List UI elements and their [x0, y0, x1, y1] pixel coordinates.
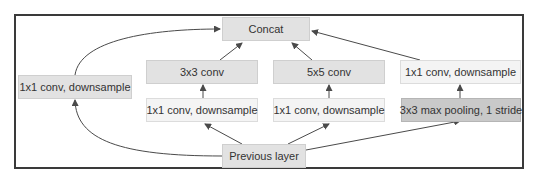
conv5x5-label: 5x5 conv: [307, 66, 351, 78]
edge-conv5x5-to-concat: [292, 43, 312, 60]
left-downsample-label: 1x1 conv, downsample: [19, 81, 130, 93]
concat-node: Concat: [222, 17, 310, 41]
conv5x5-node: 5x5 conv: [273, 60, 385, 84]
downsample-b-node: 1x1 conv, downsample: [273, 98, 385, 122]
edge-previous-to-downsample-a: [205, 124, 242, 144]
downsample-b-label: 1x1 conv, downsample: [273, 104, 384, 116]
maxpool-label: 3x3 max pooling, 1 stride: [400, 104, 522, 116]
left-downsample-node: 1x1 conv, downsample: [18, 75, 132, 99]
maxpool-node: 3x3 max pooling, 1 stride: [401, 98, 521, 122]
right-downsample-label: 1x1 conv, downsample: [405, 66, 516, 78]
concat-label: Concat: [249, 23, 284, 35]
edge-right-downsample-to-concat: [312, 31, 420, 60]
conv3x3-node: 3x3 conv: [146, 60, 258, 84]
previous-layer-node: Previous layer: [222, 144, 306, 168]
edge-previous-to-downsample-b: [288, 124, 329, 144]
edge-conv3x3-to-concat: [220, 43, 242, 60]
downsample-a-label: 1x1 conv, downsample: [146, 104, 257, 116]
conv3x3-label: 3x3 conv: [180, 66, 224, 78]
downsample-a-node: 1x1 conv, downsample: [146, 98, 258, 122]
previous-layer-label: Previous layer: [229, 150, 299, 162]
right-downsample-node: 1x1 conv, downsample: [400, 60, 521, 84]
edge-previous-to-maxpool: [306, 121, 460, 150]
